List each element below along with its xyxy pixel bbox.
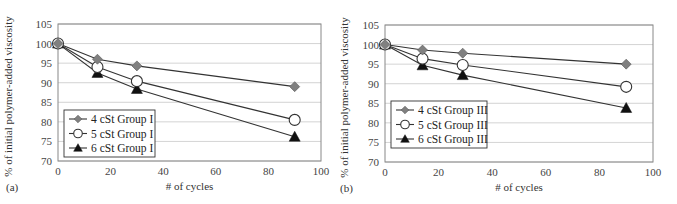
x-axis-label: # of cycles <box>495 181 543 193</box>
y-axis-label: % of initial polymer-added viscosity <box>338 17 350 178</box>
x-tick-label: 100 <box>313 165 330 177</box>
legend-label: 6 cSt Group I <box>91 142 153 155</box>
y-tick-label: 105 <box>363 19 380 31</box>
legend: 4 cSt Group III5 cSt Group III6 cSt Grou… <box>391 101 488 148</box>
diamond-marker-icon <box>290 82 300 92</box>
circle-marker-icon <box>401 120 410 129</box>
y-tick-label: 85 <box>368 97 380 109</box>
x-tick-label: 100 <box>645 166 662 178</box>
chart-panel-a: 707580859095100105020406080100% of initi… <box>2 16 330 194</box>
x-tick-label: 80 <box>263 165 275 177</box>
diamond-marker-icon <box>458 48 468 58</box>
y-tick-label: 90 <box>368 78 380 90</box>
triangle-marker-icon <box>289 131 300 141</box>
panel-label: (a) <box>6 181 19 194</box>
x-axis-label: # of cycles <box>166 180 214 192</box>
legend: 4 cSt Group I5 cSt Group I6 cSt Group I <box>64 110 155 157</box>
x-tick-label: 20 <box>105 165 117 177</box>
x-tick-label: 20 <box>433 166 445 178</box>
y-tick-label: 75 <box>41 135 53 147</box>
x-tick-label: 0 <box>55 165 61 177</box>
x-tick-label: 40 <box>158 165 170 177</box>
x-tick-label: 80 <box>594 166 606 178</box>
legend-label: 5 cSt Group III <box>418 119 488 132</box>
y-tick-label: 80 <box>368 117 380 129</box>
x-tick-label: 60 <box>210 165 222 177</box>
legend-label: 5 cSt Group I <box>91 128 153 141</box>
circle-marker-icon <box>289 114 300 125</box>
circle-marker-icon <box>131 76 142 87</box>
y-axis-label: % of initial polymer-added viscosity <box>2 16 14 177</box>
x-tick-label: 0 <box>382 166 388 178</box>
x-tick-label: 60 <box>540 166 552 178</box>
figure: 707580859095100105020406080100% of initi… <box>0 0 677 204</box>
circle-marker-icon <box>74 129 83 138</box>
diamond-marker-icon <box>418 45 428 55</box>
chart-panel-b: 707580859095100105020406080100% of initi… <box>338 17 662 195</box>
panel-label: (b) <box>340 182 353 195</box>
y-tick-label: 85 <box>41 96 53 108</box>
y-tick-label: 95 <box>41 57 53 69</box>
y-tick-label: 70 <box>41 155 53 167</box>
circle-marker-icon <box>621 81 632 92</box>
y-tick-label: 100 <box>363 39 380 51</box>
y-tick-label: 100 <box>36 38 53 50</box>
circle-marker-icon <box>457 59 468 70</box>
y-tick-label: 90 <box>41 77 53 89</box>
y-tick-label: 75 <box>368 136 380 148</box>
legend-label: 4 cSt Group I <box>91 113 153 126</box>
y-tick-label: 70 <box>368 156 380 168</box>
legend-label: 6 cSt Group III <box>418 133 488 146</box>
y-tick-label: 95 <box>368 58 380 70</box>
y-tick-label: 80 <box>41 116 53 128</box>
x-tick-label: 40 <box>487 166 499 178</box>
diamond-marker-icon <box>621 59 631 69</box>
legend-label: 4 cSt Group III <box>418 104 488 117</box>
diamond-marker-icon <box>132 61 142 71</box>
y-tick-label: 105 <box>36 18 53 30</box>
